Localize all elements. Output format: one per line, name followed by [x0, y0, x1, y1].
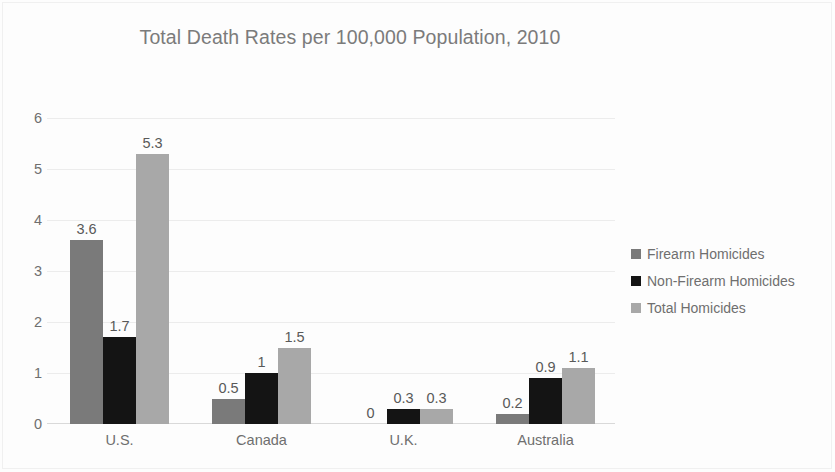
chart-title: Total Death Rates per 100,000 Population…: [0, 26, 700, 49]
bar-value-label: 3.6: [64, 221, 110, 237]
y-axis-tick-label: 3: [2, 263, 42, 279]
bar[interactable]: [529, 378, 562, 424]
gridline: [47, 118, 615, 119]
y-axis-tick-label: 5: [2, 161, 42, 177]
x-axis-category-label: Canada: [192, 432, 332, 448]
bar[interactable]: [387, 409, 420, 424]
legend-label: Firearm Homicides: [647, 246, 764, 262]
chart-legend: Firearm HomicidesNon-Firearm HomicidesTo…: [631, 240, 831, 321]
gridline: [47, 169, 615, 170]
x-axis-category-label: Australia: [476, 432, 616, 448]
chart-container: Total Death Rates per 100,000 Population…: [0, 0, 835, 472]
y-axis-tick-label: 0: [2, 416, 42, 432]
bar-value-label: 1.1: [556, 349, 602, 365]
y-axis: 0123456: [0, 118, 42, 424]
bar[interactable]: [245, 373, 278, 424]
y-axis-tick-label: 4: [2, 212, 42, 228]
bar[interactable]: [103, 337, 136, 424]
y-axis-tick-label: 6: [2, 110, 42, 126]
gridline: [47, 271, 615, 272]
plot-area: 3.61.75.30.511.500.30.30.20.91.1: [47, 118, 615, 424]
bar-value-label: 1.5: [272, 329, 318, 345]
legend-swatch-icon: [631, 303, 641, 313]
legend-item[interactable]: Firearm Homicides: [631, 240, 831, 267]
y-axis-tick-label: 1: [2, 365, 42, 381]
gridline: [47, 220, 615, 221]
legend-swatch-icon: [631, 276, 641, 286]
bar[interactable]: [136, 154, 169, 424]
legend-label: Non-Firearm Homicides: [647, 273, 795, 289]
y-axis-tick-label: 2: [2, 314, 42, 330]
legend-item[interactable]: Total Homicides: [631, 294, 831, 321]
legend-label: Total Homicides: [647, 300, 746, 316]
bar-value-label: 5.3: [130, 135, 176, 151]
legend-item[interactable]: Non-Firearm Homicides: [631, 267, 831, 294]
bar[interactable]: [278, 348, 311, 425]
bar-value-label: 0.3: [414, 390, 460, 406]
x-axis-category-label: U.K.: [334, 432, 474, 448]
legend-swatch-icon: [631, 249, 641, 259]
bar[interactable]: [496, 414, 529, 424]
x-axis-category-label: U.S.: [50, 432, 190, 448]
bar[interactable]: [212, 399, 245, 425]
bar[interactable]: [562, 368, 595, 424]
bar[interactable]: [420, 409, 453, 424]
